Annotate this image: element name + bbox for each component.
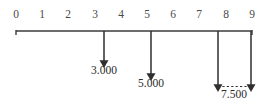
axis-tick-label-7: 7	[189, 8, 209, 21]
axis-tick-label-2: 2	[58, 8, 78, 21]
axis-tick-label-0: 0	[6, 8, 26, 21]
axis-tick-label-4: 4	[111, 8, 131, 21]
flow-7500-label: 7.500	[204, 88, 264, 101]
flow-3000-label: 3.000	[74, 64, 134, 77]
cash-flow-timeline-figure: 0123456789 3.0005.0007.500	[0, 0, 269, 104]
axis-tick-label-9: 9	[242, 8, 262, 21]
axis-tick-label-6: 6	[163, 8, 183, 21]
flow-5000-label: 5.000	[121, 77, 181, 90]
axis-tick-label-1: 1	[32, 8, 52, 21]
axis-tick-label-3: 3	[85, 8, 105, 21]
axis-tick-label-5: 5	[137, 8, 157, 21]
axis-tick-label-8: 8	[216, 8, 236, 21]
